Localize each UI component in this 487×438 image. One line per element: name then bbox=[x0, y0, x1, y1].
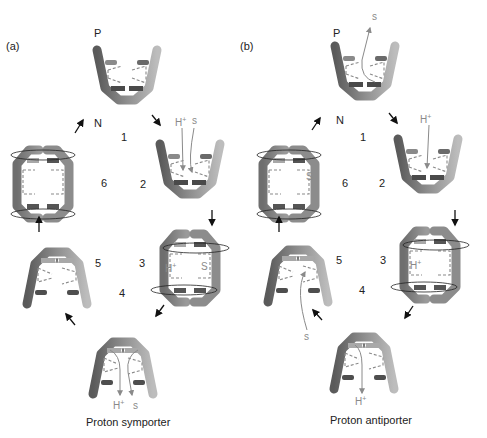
state-6-occluded bbox=[11, 150, 75, 219]
step-1: 1 bbox=[360, 131, 366, 143]
state-3-occluded: H+ bbox=[391, 231, 469, 299]
state-1-substrate-release: s bbox=[335, 11, 395, 96]
step-4: 4 bbox=[119, 287, 125, 299]
step-4: 4 bbox=[359, 284, 365, 296]
proton-label: H+ bbox=[355, 395, 366, 407]
state-1-outward-open bbox=[97, 50, 157, 100]
p-side-label: P bbox=[333, 27, 340, 39]
substrate-label: S bbox=[306, 171, 313, 182]
transporter-cycle-diagram: (a) P N 1 H+ s 2 6 H+ S bbox=[0, 0, 487, 438]
substrate-label: s bbox=[304, 331, 309, 342]
proton-label: H+ bbox=[175, 116, 186, 128]
step-6: 6 bbox=[342, 177, 348, 189]
step-5: 5 bbox=[95, 257, 101, 269]
step-2: 2 bbox=[140, 178, 146, 190]
proton-label: H+ bbox=[410, 259, 421, 271]
step-6: 6 bbox=[101, 177, 107, 189]
state-3-occluded: H+ S bbox=[151, 234, 229, 302]
n-side-label: N bbox=[336, 114, 344, 126]
panel-b-label: (b) bbox=[240, 40, 253, 52]
state-5-substrate-binding: s bbox=[268, 250, 328, 342]
step-2: 2 bbox=[379, 177, 385, 189]
step-3: 3 bbox=[380, 254, 386, 266]
state-2-binding: H+ s bbox=[160, 115, 220, 194]
caption-antiporter: Proton antiporter bbox=[330, 414, 412, 426]
p-side-label: P bbox=[94, 27, 101, 39]
proton-label: H+ bbox=[113, 399, 124, 411]
caption-symporter: Proton symporter bbox=[86, 416, 171, 428]
state-4-release: H+ s bbox=[93, 342, 153, 411]
panel-b: (b) P N s 1 H+ 2 S 6 H+ bbox=[240, 11, 469, 426]
substrate-label: S bbox=[201, 261, 208, 272]
state-2-proton-binding: H+ bbox=[398, 113, 458, 189]
step-5: 5 bbox=[336, 254, 342, 266]
n-side-label: N bbox=[94, 117, 102, 129]
proton-label: H+ bbox=[165, 262, 176, 274]
step-1: 1 bbox=[121, 131, 127, 143]
panel-a: (a) P N 1 H+ s 2 6 H+ S bbox=[6, 27, 229, 428]
state-6-occluded: S bbox=[257, 150, 321, 219]
substrate-label: s bbox=[192, 115, 197, 126]
proton-label: H+ bbox=[420, 113, 431, 125]
panel-a-label: (a) bbox=[6, 40, 19, 52]
state-5-inward-open bbox=[27, 252, 87, 304]
substrate-label: s bbox=[372, 11, 377, 22]
step-3: 3 bbox=[139, 257, 145, 269]
cycle-arrows bbox=[39, 115, 212, 325]
substrate-label: s bbox=[133, 400, 138, 411]
state-4-proton-release: H+ bbox=[334, 337, 394, 407]
